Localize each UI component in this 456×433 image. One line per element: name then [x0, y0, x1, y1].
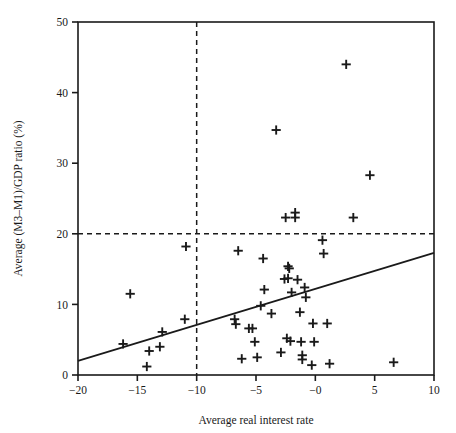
- y-axis-tick-label: 0: [62, 369, 68, 381]
- data-point-marker: [230, 315, 239, 324]
- y-axis-tick-label: 50: [57, 16, 69, 28]
- data-point-marker: [180, 315, 189, 324]
- data-point-marker: [308, 319, 317, 328]
- data-point-marker: [237, 354, 246, 363]
- data-point-marker: [155, 342, 164, 351]
- data-point-marker: [181, 242, 190, 251]
- data-point-marker: [276, 348, 285, 357]
- y-axis-tick-label: 40: [57, 87, 69, 99]
- x-axis-tick-label: −20: [69, 384, 87, 396]
- data-point-marker: [250, 337, 259, 346]
- data-point-marker: [293, 275, 302, 284]
- data-point-marker: [283, 262, 292, 271]
- data-point-marker: [342, 60, 351, 69]
- data-point-marker: [389, 358, 398, 367]
- data-point-marker: [349, 213, 358, 222]
- x-axis-tick-label: −10: [188, 384, 206, 396]
- plot-frame: [78, 22, 434, 375]
- data-point-marker: [267, 309, 276, 318]
- x-axis-tick-label: 5: [372, 384, 378, 396]
- data-point-marker: [253, 353, 262, 362]
- data-point-marker: [256, 301, 265, 310]
- data-point-marker: [145, 346, 154, 355]
- x-axis-tick-label: −5: [250, 384, 262, 396]
- data-point-marker: [234, 246, 243, 255]
- data-point-marker: [118, 339, 127, 348]
- x-axis-tick-label: 10: [428, 384, 440, 396]
- data-point-marker: [323, 319, 332, 328]
- scatter-plot-figure: 01020304050−20−15−10−5−0510Average real …: [0, 0, 456, 433]
- y-axis-title: Average (M3–M1)/GDP ratio (%): [12, 120, 25, 276]
- x-axis-tick-label: −15: [128, 384, 146, 396]
- data-point-marker: [231, 320, 240, 329]
- data-point-marker: [365, 171, 374, 180]
- x-axis-tick-label: −0: [309, 384, 321, 396]
- data-point-marker: [318, 236, 327, 245]
- plot-canvas: 01020304050−20−15−10−5−0510Average real …: [0, 0, 456, 433]
- y-axis-tick-label: 20: [57, 228, 69, 240]
- data-point-marker: [325, 359, 334, 368]
- data-point-marker: [307, 361, 316, 370]
- y-axis-tick-label: 30: [57, 157, 69, 169]
- data-point-marker: [142, 362, 151, 371]
- data-point-marker: [296, 337, 305, 346]
- data-point-marker: [281, 213, 290, 222]
- regression-line: [78, 253, 434, 361]
- y-axis-tick-label: 10: [57, 299, 69, 311]
- data-point-marker: [295, 308, 304, 317]
- data-point-marker: [298, 355, 307, 364]
- data-point-marker: [291, 213, 300, 222]
- x-axis-title: Average real interest rate: [198, 414, 313, 427]
- data-point-marker: [126, 289, 135, 298]
- data-point-marker: [272, 125, 281, 134]
- data-point-marker: [310, 337, 319, 346]
- data-point-marker: [260, 285, 269, 294]
- data-point-marker: [285, 264, 294, 273]
- data-point-marker: [259, 254, 268, 263]
- data-point-marker: [301, 293, 310, 302]
- data-point-marker: [319, 249, 328, 258]
